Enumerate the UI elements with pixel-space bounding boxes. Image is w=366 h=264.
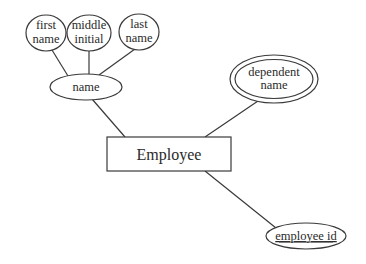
attribute-label: name (72, 80, 100, 94)
attribute-name[interactable]: name (50, 74, 122, 100)
attribute-dependent-name[interactable]: dependent name (230, 55, 318, 103)
attribute-label-key: employee id (275, 229, 337, 243)
attribute-last-name[interactable]: last name (119, 14, 159, 50)
attribute-middle-initial[interactable]: middle initial (67, 15, 111, 51)
edge-name-to-employee (92, 99, 125, 137)
attribute-label-line1: first (36, 18, 57, 32)
attribute-label-line1: dependent (248, 65, 300, 79)
attribute-label-line1: middle (72, 18, 107, 32)
edge-last-name-to-name (99, 49, 135, 75)
edge-first-name-to-name (52, 50, 68, 76)
attribute-label-line2: name (260, 78, 288, 92)
attribute-label-line1: last (130, 17, 148, 31)
edge-dependent-name-to-employee (205, 101, 258, 137)
attribute-employee-id[interactable]: employee id (266, 223, 346, 249)
entity-employee[interactable]: Employee (107, 137, 231, 171)
attribute-label-line2: name (32, 32, 60, 46)
er-diagram-canvas: first name middle initial last name name… (0, 0, 366, 264)
attribute-label-line2: initial (74, 32, 104, 46)
attribute-first-name[interactable]: first name (26, 15, 66, 51)
entity-label: Employee (137, 146, 202, 164)
edge-employee-id-to-employee (205, 171, 276, 228)
attribute-label-line2: name (125, 31, 153, 45)
